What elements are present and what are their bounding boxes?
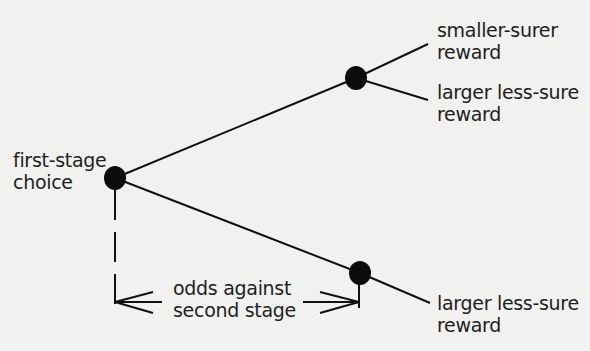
odds-line-2: second stage [173,299,296,321]
branch-lower-larger-less-sure [360,273,430,303]
odds-against-second-stage-label: odds against second stage [173,277,296,321]
branch-first-to-upper [115,78,356,178]
first-stage-choice-label: first-stage choice [13,149,106,193]
branch-first-to-lower [115,178,360,273]
upper-larger-line-2: reward [437,103,579,125]
lower-larger-line-1: larger less-sure [437,292,579,314]
upper-second-stage-node [345,66,367,90]
odds-line-1: odds against [173,277,296,299]
first-stage-node [104,166,126,190]
branch-upper-larger-less-sure [356,78,428,100]
left-arrow-icon [115,292,162,313]
right-arrow-icon [303,292,359,313]
lower-larger-less-sure-reward-label: larger less-sure reward [437,292,579,336]
upper-larger-less-sure-reward-label: larger less-sure reward [437,81,579,125]
first-stage-label-line-1: first-stage [13,149,106,171]
smaller-surer-line-2: reward [437,41,558,63]
lower-second-stage-node [349,261,371,285]
branch-upper-smaller-surer [356,44,428,78]
lower-larger-line-2: reward [437,314,579,336]
diagram-canvas: first-stage choice smaller-surer reward … [0,0,590,351]
first-stage-label-line-2: choice [13,171,106,193]
smaller-surer-reward-label: smaller-surer reward [437,19,558,63]
upper-larger-line-1: larger less-sure [437,81,579,103]
smaller-surer-line-1: smaller-surer [437,19,558,41]
